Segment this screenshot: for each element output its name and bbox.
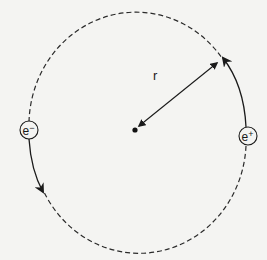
radius-label: r <box>153 68 158 83</box>
orbit-diagram: r e− e+ <box>0 0 267 260</box>
radius-arrow <box>139 63 217 126</box>
electron-charge: − <box>29 123 34 133</box>
positron-trajectory-arrow <box>223 58 246 127</box>
positron-charge: + <box>248 129 253 139</box>
positron-particle: e+ <box>239 127 257 145</box>
electron-particle: e− <box>20 121 38 139</box>
electron-trajectory-arrow <box>29 139 43 192</box>
center-dot <box>132 127 137 132</box>
diagram-canvas: r e− e+ <box>0 0 267 260</box>
dashed-orbit <box>29 12 246 253</box>
